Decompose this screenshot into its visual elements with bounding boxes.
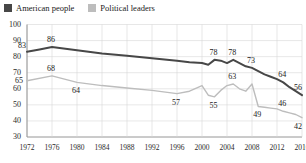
y-tick-label: 40 <box>1 117 21 125</box>
plot-area: 30405060708090100 1972197619801984198819… <box>0 0 306 163</box>
y-tick-label: 60 <box>1 85 21 93</box>
data-point-label: 64 <box>278 71 286 79</box>
data-point-label: 46 <box>278 100 286 108</box>
data-point-label: 68 <box>47 65 55 73</box>
series-line-american-people <box>27 47 302 95</box>
data-point-label: 64 <box>72 87 80 95</box>
data-point-label: 55 <box>210 102 218 110</box>
plot-canvas <box>0 0 306 163</box>
y-tick-label: 50 <box>1 101 21 109</box>
data-point-label: 78 <box>210 49 218 57</box>
y-tick-label: 30 <box>1 133 21 141</box>
data-point-label: 86 <box>47 36 55 44</box>
x-tick-label: 2016 <box>287 144 306 152</box>
data-point-label: 57 <box>172 99 180 107</box>
data-point-label: 63 <box>228 73 236 81</box>
chart-container: American peoplePolitical leaders 3040506… <box>0 0 306 163</box>
y-tick-label: 80 <box>1 53 21 61</box>
data-point-label: 83 <box>18 42 26 50</box>
data-point-label: 42 <box>294 123 302 131</box>
y-tick-label: 100 <box>1 21 21 29</box>
data-point-label: 49 <box>253 111 261 119</box>
data-point-label: 65 <box>15 77 23 85</box>
data-point-label: 78 <box>228 49 236 57</box>
data-point-label: 56 <box>294 84 302 92</box>
data-point-label: 73 <box>247 57 255 65</box>
